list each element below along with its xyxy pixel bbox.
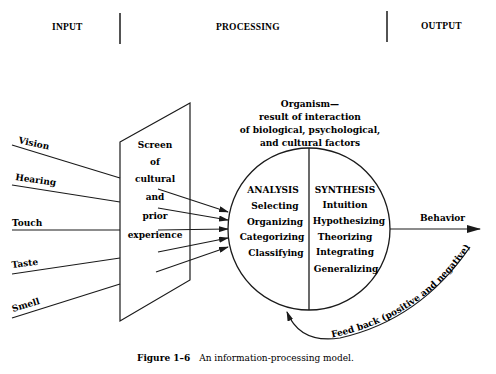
svg-text:of: of	[150, 157, 161, 167]
svg-text:result of interaction: result of interaction	[259, 112, 361, 122]
sense-taste: Taste	[11, 257, 39, 270]
header-output: OUTPUT	[421, 21, 462, 31]
svg-text:and: and	[146, 192, 165, 202]
behavior-label: Behavior	[420, 213, 465, 223]
svg-text:Organizing: Organizing	[247, 217, 304, 227]
figure-number: Figure 1–6	[137, 353, 190, 363]
figure-caption: Figure 1–6 An information-processing mod…	[137, 353, 354, 363]
sense-inputs: Vision Hearing Touch Taste Smell	[11, 135, 120, 318]
sense-smell: Smell	[11, 296, 42, 314]
svg-text:Theorizing: Theorizing	[318, 232, 373, 242]
svg-text:prior: prior	[142, 211, 167, 221]
synthesis-section: SYNTHESIS Intuition Hypothesizing Theori…	[313, 185, 386, 274]
svg-text:and cultural factors: and cultural factors	[260, 138, 360, 148]
organism-title: Organism— result of interaction of biolo…	[240, 99, 380, 148]
svg-text:Classifying: Classifying	[248, 248, 304, 258]
header-processing: PROCESSING	[216, 22, 280, 32]
analysis-section: ANALYSIS Selecting Organizing Categorizi…	[240, 185, 305, 258]
header-input: INPUT	[52, 22, 83, 32]
svg-text:Screen: Screen	[138, 140, 173, 150]
sense-vision: Vision	[17, 135, 51, 152]
sense-hearing: Hearing	[15, 172, 58, 188]
screen-text: Screen of cultural and prior experience	[128, 140, 183, 240]
svg-text:experience: experience	[128, 230, 183, 240]
sense-touch: Touch	[12, 218, 43, 228]
svg-text:cultural: cultural	[135, 174, 176, 184]
svg-text:Generalizing: Generalizing	[314, 264, 379, 274]
synthesis-heading: SYNTHESIS	[315, 185, 375, 195]
svg-text:Intuition: Intuition	[323, 200, 368, 210]
svg-text:Integrating: Integrating	[316, 247, 375, 257]
svg-text:Selecting: Selecting	[251, 201, 299, 211]
information-processing-diagram: INPUT PROCESSING OUTPUT Vision Hearing T…	[0, 0, 496, 374]
svg-text:of biological, psychological,: of biological, psychological,	[240, 125, 380, 136]
svg-text:Categorizing: Categorizing	[240, 232, 305, 242]
svg-text:Organism—: Organism—	[281, 99, 339, 109]
analysis-heading: ANALYSIS	[246, 185, 299, 195]
figure-caption-text: An information-processing model.	[198, 353, 354, 363]
svg-text:Hypothesizing: Hypothesizing	[313, 216, 386, 226]
